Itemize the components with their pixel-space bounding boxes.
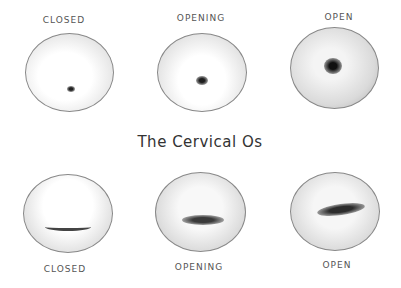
label-top-open: OPEN [325,12,354,22]
os-dot-closed [67,86,75,92]
diagram-title: The Cervical Os [137,133,262,151]
os-slit-closed [45,223,91,231]
os-slit-opening [182,215,224,225]
cervix-top-opening [157,33,247,112]
label-bottom-opening: OPENING [175,262,223,272]
os-dot-open [324,58,342,74]
cervix-bottom-closed [23,174,113,253]
label-top-closed: CLOSED [43,15,85,25]
label-bottom-open: OPEN [323,260,352,270]
cervix-top-open [290,27,379,109]
label-top-opening: OPENING [177,13,225,23]
cervix-top-closed [25,33,114,112]
os-slit-open [316,201,365,219]
cervix-bottom-open [290,172,380,251]
cervix-bottom-opening [155,172,246,252]
label-bottom-closed: CLOSED [44,264,86,274]
os-dot-opening [196,76,208,85]
